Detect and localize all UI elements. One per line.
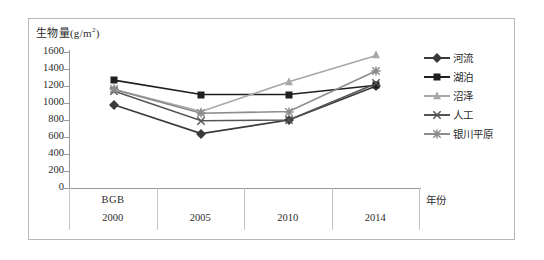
y-axis-tick-label: 0 [14, 182, 64, 192]
square-marker-icon [285, 91, 292, 98]
diamond-marker-icon [432, 53, 442, 63]
legend-swatch [424, 128, 450, 140]
y-axis-tick-label: 1400 [14, 63, 64, 73]
triangle-marker-icon [285, 77, 293, 85]
y-axis-tick-label: 1600 [14, 46, 64, 56]
series-lines [70, 52, 420, 188]
y-axis-title-tail: ) [96, 27, 100, 39]
legend-label: 沼泽 [453, 88, 473, 103]
y-axis-tick-label: 200 [14, 165, 64, 175]
x-axis-category-label: 2010 [245, 212, 331, 223]
star-marker-icon [371, 65, 382, 76]
data-point-diamond [114, 105, 121, 112]
data-point-triangle [437, 96, 445, 104]
triangle-marker-icon [433, 91, 441, 99]
x-axis-divider [244, 188, 245, 230]
x-axis-divider [419, 188, 420, 230]
y-axis-title: 生物量(g/m2) [36, 24, 100, 40]
star-marker-icon [108, 84, 119, 95]
triangle-marker-icon [372, 51, 380, 59]
y-axis-title-text: 生物量(g/m [36, 27, 92, 39]
data-point-cross [437, 115, 448, 126]
legend-item-沼泽[interactable]: 沼泽 [424, 86, 512, 105]
legend-label: 银川平原 [453, 126, 493, 141]
y-axis-tick-label: 800 [14, 114, 64, 124]
square-marker-icon [198, 91, 205, 98]
data-point-diamond [201, 134, 208, 141]
star-marker-icon [283, 106, 294, 117]
legend-label: 人工 [453, 107, 473, 122]
data-point-star [437, 134, 448, 145]
data-point-triangle [289, 82, 297, 90]
series-line-沼泽 [114, 55, 377, 111]
data-point-triangle [376, 55, 384, 63]
plot-area [70, 52, 420, 188]
y-axis-tick-label: 1200 [14, 80, 64, 90]
legend-item-银川平原[interactable]: 银川平原 [424, 124, 512, 143]
x-axis-category-label: 2000 [70, 212, 156, 223]
star-marker-icon [196, 108, 207, 119]
x-axis-category-label: 2014 [332, 212, 418, 223]
y-axis-tick-label: 1000 [14, 97, 64, 107]
data-point-star [114, 89, 125, 100]
x-axis-divider [157, 188, 158, 230]
legend-item-河流[interactable]: 河流 [424, 48, 512, 67]
legend-swatch [424, 90, 450, 102]
bgb-annotation: BGB [70, 194, 156, 205]
series-line-银川平原 [114, 71, 377, 114]
data-point-square [201, 95, 208, 102]
cross-marker-icon [432, 109, 443, 120]
series-line-河流 [114, 86, 377, 134]
data-point-square [437, 77, 444, 84]
square-marker-icon [110, 77, 117, 84]
series-line-湖泊 [114, 80, 377, 94]
legend-swatch [424, 52, 450, 64]
chart-legend: 河流湖泊沼泽人工银川平原 [424, 48, 512, 143]
legend-label: 湖泊 [453, 69, 473, 84]
data-point-star [289, 112, 300, 123]
legend-item-人工[interactable]: 人工 [424, 105, 512, 124]
legend-item-湖泊[interactable]: 湖泊 [424, 67, 512, 86]
legend-swatch [424, 109, 450, 121]
data-point-square [289, 95, 296, 102]
x-axis-category-label: 2005 [157, 212, 243, 223]
chart-screenshot: 生物量(g/m2) 16001400120010008006004002000 … [0, 0, 544, 260]
star-marker-icon [432, 128, 443, 139]
y-axis-tick-label: 400 [14, 148, 64, 158]
legend-label: 河流 [453, 50, 473, 65]
x-axis-title: 年份 [426, 192, 446, 207]
square-marker-icon [434, 73, 441, 80]
y-axis-tick-label: 600 [14, 131, 64, 141]
legend-swatch [424, 71, 450, 83]
data-point-cross [376, 83, 387, 94]
data-point-star [376, 71, 387, 82]
data-point-diamond [437, 58, 444, 65]
data-point-star [201, 113, 212, 124]
x-axis-divider [332, 188, 333, 230]
